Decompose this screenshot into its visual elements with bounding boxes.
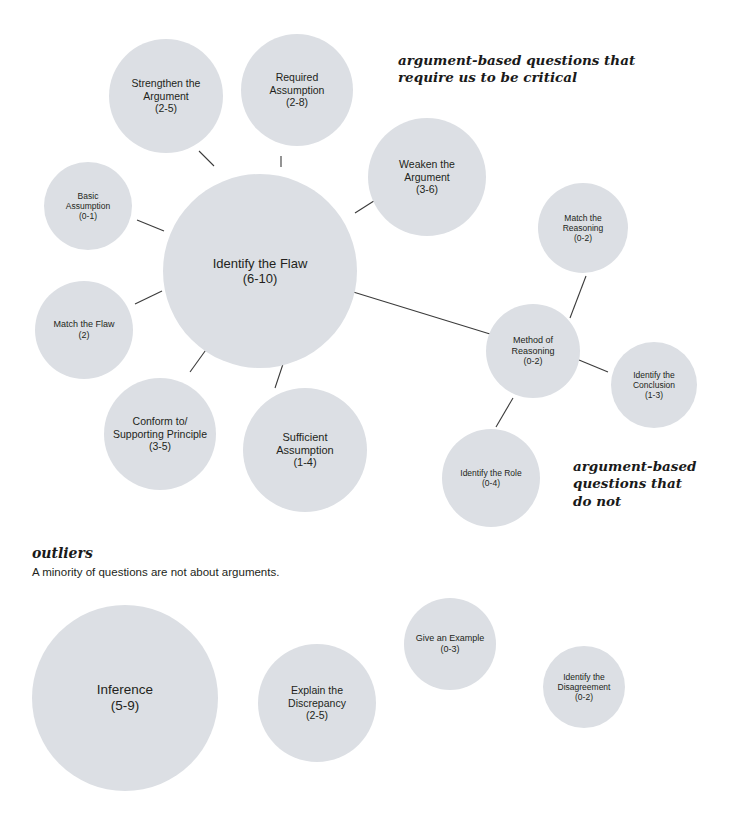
bubble-label: Strengthen the Argument (2-5) — [128, 77, 205, 114]
bubble-match-the-reasoning[interactable]: Match the Reasoning (0-2) — [538, 183, 628, 273]
bubble-label: Give an Example (0-3) — [412, 633, 489, 654]
bubble-label: Match the Flaw (2) — [49, 319, 118, 340]
bubble-required-assumption[interactable]: Required Assumption (2-8) — [241, 34, 353, 146]
connector-line — [199, 151, 214, 166]
annot-critical: argument-based questions that require us… — [398, 52, 635, 87]
bubble-give-an-example[interactable]: Give an Example (0-3) — [404, 598, 496, 690]
connector-line — [496, 398, 513, 427]
diagram-page: Strengthen the Argument (2-5)Required As… — [0, 0, 736, 831]
bubble-identify-the-conclusion[interactable]: Identify the Conclusion (1-3) — [611, 342, 697, 428]
bubble-label: Identify the Role (0-4) — [456, 468, 525, 488]
bubble-conform-to-supporting-principle[interactable]: Conform to/ Supporting Principle (3-5) — [104, 378, 216, 490]
annot-do-not: argument-based questions that do not — [573, 458, 696, 510]
bubble-inference[interactable]: Inference (5-9) — [32, 605, 218, 791]
bubble-label: Explain the Discrepancy (2-5) — [284, 684, 350, 721]
bubble-strengthen-the-argument[interactable]: Strengthen the Argument (2-5) — [109, 39, 223, 153]
bubble-explain-the-discrepancy[interactable]: Explain the Discrepancy (2-5) — [258, 644, 376, 762]
bubble-match-the-flaw[interactable]: Match the Flaw (2) — [35, 281, 133, 379]
bubble-label: Method of Reasoning (0-2) — [507, 335, 558, 367]
bubble-label: Sufficient Assumption (1-4) — [272, 431, 337, 470]
connector-line — [350, 291, 490, 334]
connector-line — [275, 364, 283, 388]
bubble-identify-the-disagreement[interactable]: Identify the Disagreement (0-2) — [543, 646, 625, 728]
bubble-label: Match the Reasoning (0-2) — [559, 213, 608, 243]
bubble-label: Identify the Flaw (6-10) — [209, 256, 312, 287]
connector-line — [579, 360, 608, 372]
bubble-label: Inference (5-9) — [93, 682, 157, 714]
bubble-weaken-the-argument[interactable]: Weaken the Argument (3-6) — [368, 118, 486, 236]
bubble-label: Basic Assumption (0-1) — [62, 191, 114, 221]
bubble-sufficient-assumption[interactable]: Sufficient Assumption (1-4) — [243, 388, 367, 512]
connector-line — [137, 220, 164, 231]
section-heading-outliers: outliers — [32, 545, 93, 561]
bubble-label: Required Assumption (2-8) — [266, 71, 329, 108]
bubble-label: Identify the Disagreement (0-2) — [554, 672, 615, 702]
bubble-label: Weaken the Argument (3-6) — [395, 158, 459, 195]
bubble-identify-the-flaw[interactable]: Identify the Flaw (6-10) — [163, 174, 357, 368]
bubble-basic-assumption[interactable]: Basic Assumption (0-1) — [44, 162, 132, 250]
bubble-method-of-reasoning[interactable]: Method of Reasoning (0-2) — [486, 304, 580, 398]
connector-line — [135, 291, 162, 304]
bubble-identify-the-role[interactable]: Identify the Role (0-4) — [442, 429, 540, 527]
connector-line — [570, 276, 586, 318]
section-subtitle-outliers: A minority of questions are not about ar… — [32, 566, 279, 578]
bubble-label: Conform to/ Supporting Principle (3-5) — [109, 415, 211, 452]
bubble-label: Identify the Conclusion (1-3) — [629, 370, 679, 400]
